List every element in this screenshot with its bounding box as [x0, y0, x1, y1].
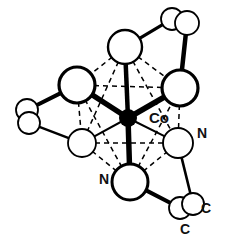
label-nitrogen-n-bottom: N: [99, 171, 109, 187]
label-metal-co: Co: [149, 109, 169, 126]
coordination-complex-diagram: CoNNCC: [0, 0, 225, 244]
label-carbon-c-bottom-right-a: C: [180, 221, 190, 237]
chemical-structure-figure: CoNNCC: [0, 0, 225, 244]
nitrogen-atom-n-lower-right: [163, 128, 193, 158]
nitrogen-atom-n-upper-left: [59, 67, 95, 103]
carbon-atom-c-top-right-b: [175, 11, 199, 35]
nitrogen-atom-n-upper-right: [162, 70, 198, 106]
metal-atom-group: [119, 109, 137, 127]
label-nitrogen-n-lower-right: N: [197, 125, 207, 141]
nitrogen-atom-n-lower-left: [68, 129, 96, 157]
octahedron-edge-n-upper-right-to-n-lower-right: [179, 105, 180, 129]
label-carbon-c-bottom-right-b: C: [201, 200, 211, 216]
nitrogen-atom-n-top: [108, 30, 142, 64]
nitrogen-atom-n-bottom: [112, 164, 148, 200]
carbon-atom-c-left-b: [18, 112, 40, 134]
metal-atom-cobalt: [119, 109, 137, 127]
